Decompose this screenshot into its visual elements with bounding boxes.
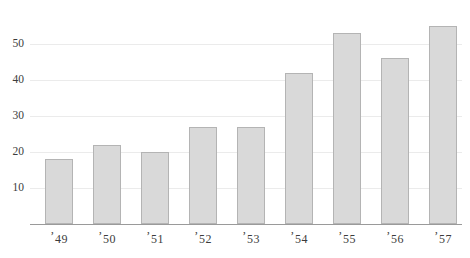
gridline-50 (30, 44, 462, 45)
apostrophe-glyph: ’ (434, 229, 438, 243)
x-tick-label: ’54 (275, 230, 323, 245)
bar (93, 145, 121, 224)
bar-chart: 50 40 30 20 10 ’49’50’51’52’53’54’55’56’… (0, 0, 470, 258)
x-tick-label: ’52 (179, 230, 227, 245)
x-tick-label: ’53 (227, 230, 275, 245)
x-tick-label: ’49 (35, 230, 83, 245)
y-tick-label-30: 30 (2, 110, 24, 122)
x-tick-label: ’51 (131, 230, 179, 245)
bar (333, 33, 361, 224)
y-tick-label-10: 10 (2, 182, 24, 194)
apostrophe-glyph: ’ (194, 229, 198, 243)
x-tick-label: ’56 (371, 230, 419, 245)
y-tick-label-20: 20 (2, 146, 24, 158)
apostrophe-glyph: ’ (242, 229, 246, 243)
bar (285, 73, 313, 224)
x-axis-line (30, 224, 462, 225)
bar (141, 152, 169, 224)
bar (429, 26, 457, 224)
apostrophe-glyph: ’ (290, 229, 294, 243)
apostrophe-glyph: ’ (338, 229, 342, 243)
y-tick-label-50: 50 (2, 38, 24, 50)
x-tick-label: ’55 (323, 230, 371, 245)
bar (381, 58, 409, 224)
apostrophe-glyph: ’ (146, 229, 150, 243)
y-tick-label-40: 40 (2, 74, 24, 86)
x-tick-label: ’50 (83, 230, 131, 245)
bar (45, 159, 73, 224)
bar (237, 127, 265, 224)
plot-area (30, 10, 462, 224)
apostrophe-glyph: ’ (386, 229, 390, 243)
x-tick-label: ’57 (419, 230, 467, 245)
apostrophe-glyph: ’ (50, 229, 54, 243)
apostrophe-glyph: ’ (98, 229, 102, 243)
bar (189, 127, 217, 224)
